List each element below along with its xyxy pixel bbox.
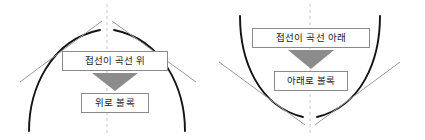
conclusion-label-concave-down: 위로 볼록	[95, 98, 135, 108]
flow-arrow-left	[92, 73, 138, 91]
curve-concave-down-left-branch	[29, 30, 100, 131]
conclusion-box-concave-up: 아래로 볼록	[274, 71, 348, 91]
condition-box-concave-down: 접선이 곡선 위	[62, 51, 168, 71]
condition-label-concave-up: 접선이 곡선 아래	[276, 33, 346, 43]
flow-arrow-right	[288, 50, 334, 69]
concavity-diagram: 접선이 곡선 위 위로 볼록 접선이 곡선 아래 아래로 볼록	[0, 0, 425, 140]
conclusion-label-concave-up: 아래로 볼록	[287, 76, 336, 86]
condition-box-concave-up: 접선이 곡선 아래	[252, 28, 370, 48]
condition-label-concave-down: 접선이 곡선 위	[85, 56, 146, 66]
conclusion-box-concave-down: 위로 볼록	[81, 93, 149, 113]
